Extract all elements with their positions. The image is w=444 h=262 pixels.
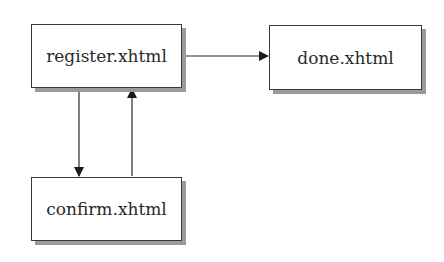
- node-confirm-label: confirm.xhtml: [46, 199, 167, 219]
- node-register-label: register.xhtml: [46, 46, 167, 66]
- node-register: register.xhtml: [31, 24, 182, 88]
- node-done: done.xhtml: [269, 25, 422, 90]
- node-confirm: confirm.xhtml: [31, 177, 182, 241]
- node-done-label: done.xhtml: [297, 48, 393, 68]
